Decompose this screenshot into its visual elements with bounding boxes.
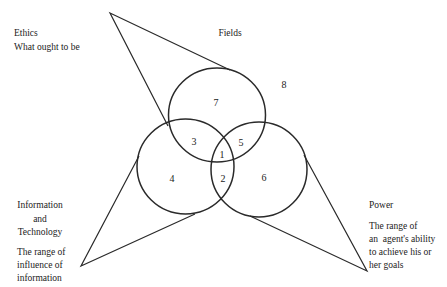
power-desc-line-1: The range of — [369, 221, 418, 231]
venn-diagram: 7 8 3 5 1 4 2 6 Ethics What ought to be … — [0, 0, 447, 287]
region-5: 5 — [239, 137, 244, 148]
ethics-subtitle: What ought to be — [14, 42, 80, 52]
region-2: 2 — [221, 173, 226, 184]
info-tech-desc-line-1: The range of — [17, 247, 66, 257]
region-1: 1 — [220, 149, 225, 160]
region-8: 8 — [282, 79, 287, 90]
info-tech-title-line-2: and — [33, 214, 47, 224]
power-pointer — [250, 155, 367, 271]
ethics-pointer — [110, 13, 230, 126]
info-tech-title-line-3: Technology — [18, 227, 63, 237]
power-desc-line-3: to achieve his or — [369, 247, 432, 257]
power-desc-line-4: her goals — [369, 260, 404, 270]
info-tech-desc-line-2: influence of — [17, 260, 63, 270]
region-6: 6 — [262, 172, 267, 183]
power-title: Power — [369, 200, 394, 210]
region-3: 3 — [192, 136, 197, 147]
fields-title: Fields — [218, 28, 242, 38]
power-circle — [211, 122, 307, 217]
region-7: 7 — [214, 97, 219, 108]
power-desc-line-2: an agent's ability — [369, 234, 436, 244]
region-4: 4 — [170, 173, 175, 184]
info-tech-title-line-1: Information — [17, 200, 63, 210]
info-tech-circle — [137, 119, 234, 214]
fields-circle — [169, 68, 266, 162]
info-tech-desc-line-3: information — [17, 273, 62, 283]
ethics-title: Ethics — [14, 28, 38, 38]
